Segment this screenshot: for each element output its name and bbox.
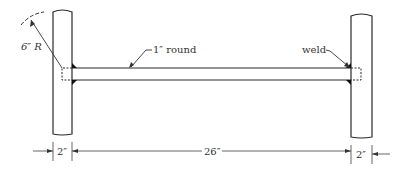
right-post-dim: 2″ [356, 149, 366, 160]
left-post-dim: 2″ [57, 146, 67, 157]
frame-drawing: 6″ R 1″ round weld 2″ 26″ 2″ [0, 0, 410, 176]
welds [72, 63, 351, 85]
weld-label: weld [302, 44, 327, 55]
span-dim: 26″ [204, 146, 221, 157]
radius-arrow-icon [30, 20, 35, 27]
radius-label: 6″ R [21, 41, 42, 52]
weld-leader [330, 51, 348, 66]
bar-label: 1″ round [153, 44, 197, 55]
round-bar [62, 68, 361, 80]
